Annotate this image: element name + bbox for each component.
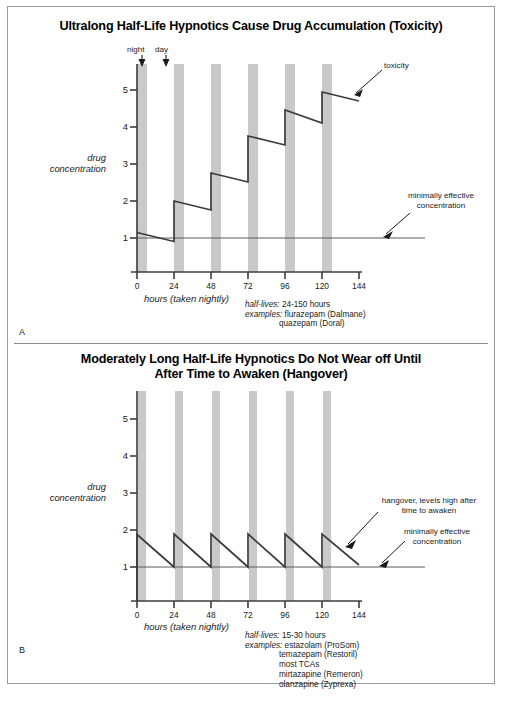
panel-b-notes: half-lives: 15-30 hours examples: estazo… [245, 631, 363, 689]
panel-a-xtick-96: 96 [270, 281, 300, 291]
panel-a-halflives-value: 24-150 hours [282, 300, 330, 309]
panel-a-night-bands [137, 64, 332, 272]
panel-a-x-axis-title: hours (taken nightly) [144, 293, 229, 304]
panel-a-xtick-24: 24 [159, 281, 189, 291]
panel-a-ytick-4: 4 [112, 121, 128, 132]
panel-b-hangover-label: hangover, levels high after time to awak… [358, 496, 500, 515]
panel-b-mec-label: minimally effective concentration [382, 527, 492, 546]
panel-b-y-ticks [130, 419, 137, 567]
panel-a-y-ticks [130, 90, 137, 238]
panel-b-examples-row-4: olanzapine (Zyprexa) [245, 680, 363, 690]
panel-b-halflives-label: half-lives: [245, 631, 280, 640]
panel-b-x-ticks [137, 601, 359, 608]
panel-a-ytick-1: 1 [112, 232, 128, 243]
panel-b-xtick-0: 0 [122, 610, 152, 620]
panel-b-examples-row-3: mirtazapine (Remeron) [245, 670, 363, 680]
panel-b-xtick-24: 24 [159, 610, 189, 620]
panel-a-y-axis-title-line2: concentration [50, 163, 106, 174]
panel-a-examples-label: examples: [245, 310, 282, 319]
panel-b-halflives-value: 15-30 hours [282, 631, 326, 640]
panel-b-hangover-label-line1: hangover, levels high after [382, 496, 477, 505]
panel-a-xtick-72: 72 [233, 281, 263, 291]
panel-a-ytick-3: 3 [112, 158, 128, 169]
panel-b-mec-label-line1: minimally effective [404, 527, 470, 536]
panel-b-xtick-48: 48 [196, 610, 226, 620]
panel-b-xtick-96: 96 [270, 610, 300, 620]
panel-a-xtick-48: 48 [196, 281, 226, 291]
panel-b-xtick-72: 72 [233, 610, 263, 620]
panel-b-letter: B [19, 645, 25, 655]
panel-b-examples-row-1: temazepam (Restoril) [245, 650, 363, 660]
panel-b-halflives-row: half-lives: 15-30 hours [245, 631, 363, 641]
panel-a-mec-label-line2: concentration [417, 201, 466, 210]
panel-a-examples-row-0: examples: flurazepam (Dalmane) [245, 310, 366, 320]
figure-container: Ultralong Half-Life Hypnotics Cause Drug… [0, 0, 506, 706]
panel-a-x-ticks [137, 272, 359, 279]
panel-b-ytick-5: 5 [112, 413, 128, 424]
panel-b-example-1: temazepam (Restoril) [279, 650, 357, 659]
panel-a-mec-label: minimally effective concentration [386, 191, 496, 210]
panel-a-halflives-row: half-lives: 24-150 hours [245, 300, 366, 310]
panel-b-mec-label-line2: concentration [413, 537, 462, 546]
panel-a-examples-row-1: quazepam (Doral) [245, 319, 366, 329]
panel-b-ytick-3: 3 [112, 487, 128, 498]
panel-a-ytick-5: 5 [112, 84, 128, 95]
panel-a-night-label: night [127, 45, 145, 54]
panel-a-day-arrow [163, 55, 170, 67]
panel-a-example-1: quazepam (Doral) [279, 319, 345, 328]
panel-b-example-0: estazolam (ProSom) [285, 641, 360, 650]
panel-b-x-axis-title: hours (taken nightly) [144, 621, 229, 632]
panel-a-y-axis-title: drug concentration [20, 152, 106, 174]
panel-a-xtick-120: 120 [307, 281, 337, 291]
panel-a-toxicity-arrow [354, 70, 382, 97]
panel-a-y-axis-title-line1: drug [87, 152, 106, 163]
panel-b-example-2: most TCAs [279, 660, 319, 669]
panel-b-ytick-4: 4 [112, 450, 128, 461]
panel-b-hangover-label-line2: time to awaken [402, 506, 456, 515]
panel-b-y-axis-title-line1: drug [87, 481, 106, 492]
panel-b-hangover-arrow [345, 512, 378, 549]
panel-b-ytick-1: 1 [112, 561, 128, 572]
panel-a-xtick-0: 0 [122, 281, 152, 291]
panel-b-example-3: mirtazapine (Remeron) [279, 670, 363, 679]
panel-a-toxicity-label: toxicity [384, 61, 409, 70]
panel-b-example-4: olanzapine (Zyprexa) [279, 680, 356, 689]
panel-b-night-bands [138, 391, 331, 601]
panel-b-examples-row-2: most TCAs [245, 660, 363, 670]
panel-a-day-label: day [155, 45, 168, 54]
panel-a-notes: half-lives: 24-150 hours examples: flura… [245, 300, 366, 329]
panel-b-y-axis-title-line2: concentration [50, 492, 106, 503]
panel-b-y-axis-title: drug concentration [20, 481, 106, 503]
panel-a-mec-arrow [383, 213, 410, 239]
panel-b-xtick-120: 120 [307, 610, 337, 620]
panel-a-example-0: flurazepam (Dalmane) [285, 310, 366, 319]
panel-b-xtick-144: 144 [344, 610, 374, 620]
panel-a-halflives-label: half-lives: [245, 300, 280, 309]
panel-a-mec-label-line1: minimally effective [408, 191, 474, 200]
panel-b-ytick-2: 2 [112, 524, 128, 535]
panel-b-examples-row-0: examples: estazolam (ProSom) [245, 641, 363, 651]
panel-a-xtick-144: 144 [344, 281, 374, 291]
panel-b-examples-label: examples: [245, 641, 282, 650]
panel-a-ytick-2: 2 [112, 195, 128, 206]
